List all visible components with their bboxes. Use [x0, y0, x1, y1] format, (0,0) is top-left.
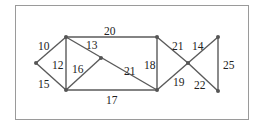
edge-weight-label: 19: [173, 76, 185, 88]
graph-node-C: [64, 88, 68, 92]
edge-weight-label: 17: [106, 94, 118, 106]
edge-weight-label: 18: [144, 59, 156, 71]
edge-weight-label: 21: [124, 65, 136, 77]
graph-canvas: 1015122013162117182119142225: [0, 0, 266, 128]
edge-weight-label: 10: [38, 40, 50, 52]
edge-weight-label: 21: [172, 40, 184, 52]
graph-node-H: [216, 35, 220, 39]
graph-node-E: [155, 35, 159, 39]
edge-weight-label: 14: [192, 40, 204, 52]
graph-node-D: [99, 56, 103, 60]
edge-weight-label: 15: [38, 78, 50, 90]
graph-node-I: [216, 89, 220, 93]
graph-node-F: [155, 88, 159, 92]
edge-weight-label: 22: [194, 79, 206, 91]
graph-node-A: [34, 61, 38, 65]
graph-node-B: [64, 35, 68, 39]
edge-weight-label: 25: [223, 59, 235, 71]
edge-weight-label: 12: [52, 59, 64, 71]
edge-weight-label: 20: [104, 25, 116, 37]
edge-weight-label: 16: [72, 63, 84, 75]
graph-node-G: [186, 61, 190, 65]
edge-weight-label: 13: [86, 39, 98, 51]
